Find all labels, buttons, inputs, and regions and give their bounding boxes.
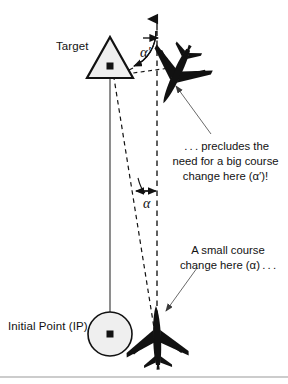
aircraft-lower-silhouette (125, 305, 189, 371)
target-marker-triangle (87, 37, 133, 78)
alpha-label: α (143, 196, 150, 212)
leader-line-bottom-callout (166, 268, 197, 311)
callout-text-bottom: A small course change here (α) . . . (172, 243, 284, 273)
alpha-angle-arc (136, 178, 156, 193)
target-label: Target (56, 39, 89, 53)
diagram-canvas: Target Initial Point (IP) α′ α . . . pre… (0, 0, 288, 384)
callout-text-top: . . . precludes the need for a big cours… (168, 139, 283, 184)
ip-marker-circle (88, 312, 132, 356)
dashed-target-to-aircraft-line (126, 68, 170, 74)
leader-line-top-callout (176, 86, 211, 134)
alpha-prime-label: α′ (140, 44, 151, 61)
initial-point-label: Initial Point (IP) (8, 319, 88, 333)
